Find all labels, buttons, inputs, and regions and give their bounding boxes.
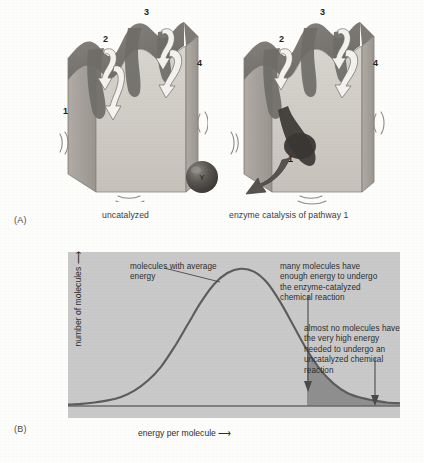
panel-b-letter: (B) (14, 424, 27, 434)
pathway-number-1-right: 1 (288, 154, 293, 164)
energy-landscape-block-catalyzed: 1 2 3 4 (222, 6, 387, 206)
pathway-number-3-left: 3 (144, 7, 149, 17)
energy-distribution-plot: molecules with average energy many molec… (68, 252, 400, 418)
y-axis-label-wrap: number of molecules ⟶ (30, 258, 44, 408)
x-axis-label: energy per molecule ⟶ (138, 428, 231, 438)
panel-a-letter: (A) (14, 215, 27, 225)
block-right-illustration (222, 6, 387, 206)
sphere-illustration: Y (183, 158, 221, 196)
panel-a: 1 2 3 4 (0, 0, 424, 232)
pathway-number-1-left: 1 (63, 106, 68, 116)
pathway-number-4-left: 4 (197, 58, 202, 68)
y-axis-label: number of molecules ⟶ (73, 239, 83, 359)
caption-uncatalyzed: uncatalyzed (102, 210, 149, 220)
caption-enzyme-catalysis: enzyme catalysis of pathway 1 (229, 210, 348, 220)
substrate-molecule-sphere: Y (183, 158, 221, 200)
annotation-many-molecules: many molecules have enough energy to und… (280, 262, 388, 304)
x-axis-arrow-icon: ⟶ (218, 428, 231, 438)
annotation-almost-no-molecules: almost no molecules have the very high e… (304, 324, 404, 376)
figure-root: 1 2 3 4 (0, 0, 424, 463)
x-axis-label-text: energy per molecule (138, 428, 216, 438)
y-axis-label-text: number of molecules (73, 267, 83, 347)
pathway-number-3-right: 3 (320, 7, 325, 17)
annotation-average-energy: molecules with average energy (130, 262, 230, 283)
pathway-number-2-left: 2 (103, 34, 108, 44)
sphere-label: Y (199, 173, 205, 182)
pathway-number-2-right: 2 (279, 34, 284, 44)
pathway-number-4-right: 4 (373, 58, 378, 68)
y-axis-arrow-icon: ⟶ (73, 251, 83, 264)
